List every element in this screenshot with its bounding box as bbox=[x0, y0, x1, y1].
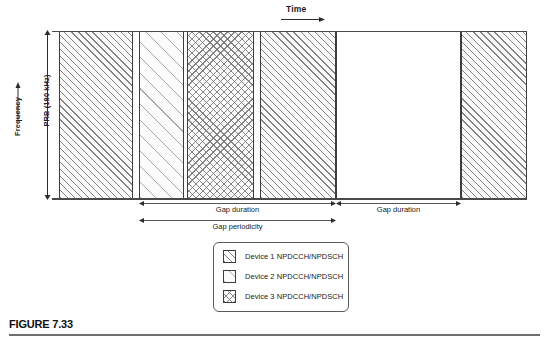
prb-extent-arrow-icon bbox=[43, 30, 52, 200]
block-gap-idle bbox=[336, 32, 461, 198]
legend-swatch-device3-icon bbox=[223, 290, 236, 303]
block-device1-c bbox=[461, 32, 527, 198]
time-arrow-icon bbox=[281, 16, 325, 23]
block-device2 bbox=[139, 32, 184, 198]
block-device3 bbox=[187, 32, 254, 198]
legend-label-device2: Device 2 NPDCCH/NPDSCH bbox=[245, 272, 343, 281]
caption-divider bbox=[9, 334, 540, 336]
legend-label-device1: Device 1 NPDCCH/NPDSCH bbox=[245, 252, 343, 261]
legend-item-device1: Device 1 NPDCCH/NPDSCH bbox=[223, 248, 343, 264]
gap-periodicity-label: Gap periodicity bbox=[139, 222, 336, 231]
legend-item-device2: Device 2 NPDCCH/NPDSCH bbox=[223, 268, 343, 284]
figure-caption: FIGURE 7.33 bbox=[9, 318, 73, 330]
legend-label-device3: Device 3 NPDCCH/NPDSCH bbox=[245, 292, 343, 301]
legend: Device 1 NPDCCH/NPDSCH Device 2 NPDCCH/N… bbox=[213, 242, 349, 312]
legend-swatch-device2-icon bbox=[223, 270, 236, 283]
block-device1-b bbox=[260, 32, 336, 198]
gap-duration-2-label: Gap duration bbox=[336, 205, 461, 214]
legend-swatch-device1-icon bbox=[223, 250, 236, 263]
time-axis-label: Time bbox=[286, 4, 307, 14]
block-device1-a bbox=[59, 32, 133, 198]
legend-item-device3: Device 3 NPDCCH/NPDSCH bbox=[223, 288, 343, 304]
gap-duration-1-label: Gap duration bbox=[139, 205, 336, 214]
figure-7-33: Time Frequency PRB (180 kHz) Gap duratio… bbox=[0, 0, 548, 341]
frequency-arrow-icon bbox=[14, 82, 22, 122]
